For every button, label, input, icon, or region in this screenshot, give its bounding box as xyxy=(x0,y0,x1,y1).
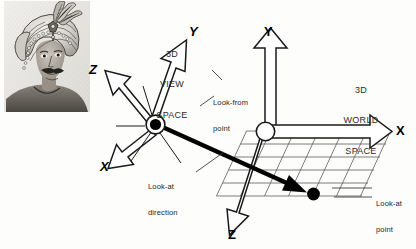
view-space-title: 3D VIEW SPACE xyxy=(146,29,198,140)
world-space-title-line1: 3D xyxy=(332,85,390,95)
look-at-point-callout-line1: Look-at xyxy=(376,200,402,209)
z-axis-world-label: Z xyxy=(228,228,236,243)
world-space-title-line2: WORLD xyxy=(332,115,390,125)
look-from-point-callout: Look-from point xyxy=(213,82,248,150)
x-axis-view-label: X xyxy=(100,160,109,175)
view-space-title-line1: 3D xyxy=(146,49,198,59)
z-axis-view-label: Z xyxy=(89,63,97,78)
diagram-canvas: 3D VIEW SPACE 3D WORLD SPACE Y Z X Y X Z… xyxy=(0,0,416,249)
look-at-direction-callout-line1: Look-at xyxy=(148,183,178,192)
world-space-title-line3: SPACE xyxy=(332,146,390,156)
y-axis-world xyxy=(254,28,287,129)
y-axis-world-label: Y xyxy=(264,25,273,40)
y-axis-view-label: Y xyxy=(189,25,198,40)
look-at-direction-callout: Look-at direction xyxy=(148,166,178,234)
view-space-title-line2: VIEW xyxy=(146,79,198,89)
z-axis-view xyxy=(105,71,152,123)
look-at-point-callout-line2: point xyxy=(376,226,402,235)
x-axis-world-label: X xyxy=(396,124,405,139)
world-space-title: 3D WORLD SPACE xyxy=(332,65,390,176)
look-at-direction-callout-line2: direction xyxy=(148,209,178,218)
view-space-title-line3: SPACE xyxy=(146,110,198,120)
world-origin-circle xyxy=(256,122,274,140)
look-at-point-dot xyxy=(307,188,320,201)
look-from-point-callout-line2: point xyxy=(213,125,248,134)
look-from-point-callout-line1: Look-from xyxy=(213,99,248,108)
look-at-point-callout: Look-at point xyxy=(376,183,402,249)
